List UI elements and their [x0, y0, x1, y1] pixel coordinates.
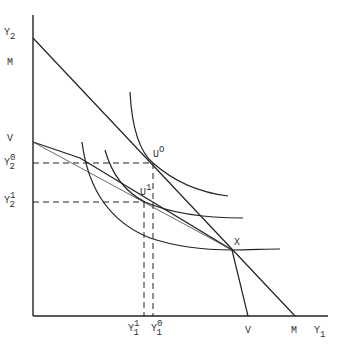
point-U0: UO [153, 150, 164, 160]
x-tick-Y1-0: Y01 [151, 324, 162, 334]
indifference-curve-X [82, 142, 280, 250]
y-tick-Y2-1: Y12 [4, 196, 15, 206]
y-tick-Y2-0: Y02 [4, 158, 15, 168]
point-X: X [234, 238, 240, 248]
diagram-canvas [0, 0, 342, 354]
indifference-curve-U0 [130, 92, 228, 196]
x-axis-label: Y1 [314, 326, 325, 336]
y-tick-M: M [7, 58, 13, 68]
indifference-curve-U1 [105, 150, 243, 218]
y-tick-V: V [7, 134, 13, 144]
budget-line-V-thin [33, 142, 232, 250]
x-tick-M: M [291, 326, 297, 336]
kinked-line-V [33, 142, 248, 316]
point-U1: U1 [140, 188, 151, 198]
y-axis-label: Y2 [4, 28, 15, 38]
x-tick-V: V [245, 326, 251, 336]
budget-line-M [33, 38, 295, 316]
x-tick-Y1-1: Y11 [128, 324, 139, 334]
